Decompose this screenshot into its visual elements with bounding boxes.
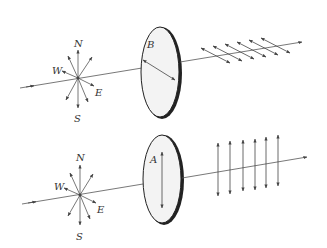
polarizer-label-b: B [146,39,154,50]
diagonal-polarized-arrows [201,38,290,63]
label-south: S [74,113,81,124]
top-panel: N S W E B [20,27,302,124]
polarizer-label-a: A [149,154,157,165]
beam-direction-arrow-icon [26,86,34,87]
vertical-polarized-arrows [218,135,278,196]
label-north: N [75,152,86,163]
label-east: E [94,87,103,98]
label-west: W [52,65,63,76]
polarization-diagram: N S W E B [0,0,327,248]
beam-direction-arrow-icon [28,202,36,203]
unpolarized-compass-icon [64,165,96,225]
light-beam-out [182,157,307,178]
label-east: E [96,204,105,215]
unpolarized-compass-icon [62,50,94,108]
bottom-panel: N S W E A [22,135,307,242]
label-north: N [73,38,84,49]
polarizer-a [143,135,184,225]
label-south: S [76,231,83,242]
label-west: W [54,181,65,192]
